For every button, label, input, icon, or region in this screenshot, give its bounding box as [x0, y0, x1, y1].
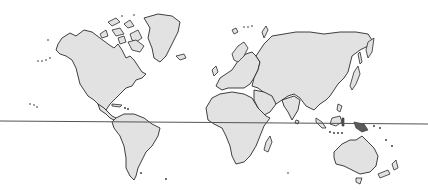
madagascar [264, 136, 272, 152]
java-isle [329, 131, 331, 133]
uk [212, 66, 218, 76]
japan [350, 66, 360, 90]
baffin-island [128, 40, 144, 52]
arctic-island [118, 36, 126, 44]
pacific-isle [379, 127, 381, 129]
aleutian-isle [49, 57, 51, 59]
aleutian-isle [41, 60, 43, 62]
arctic-island [108, 18, 120, 26]
new-zealand-south [378, 170, 390, 178]
falkland-isle [140, 172, 142, 174]
new-zealand-north [392, 160, 398, 170]
aleutian-isle [45, 59, 47, 61]
philippines [337, 104, 342, 112]
caribbean-isle [124, 107, 126, 109]
arctic-isle [121, 15, 123, 17]
world-map [0, 0, 428, 190]
arctic-isle [243, 26, 245, 28]
arctic-isle [247, 26, 249, 28]
novaya-zemlya [262, 26, 268, 38]
world-map-svg [0, 0, 428, 190]
highlighted-island [342, 118, 344, 126]
cuba [112, 104, 122, 107]
borneo [330, 116, 342, 126]
hawaii-isle [29, 103, 31, 105]
pacific-isle [385, 139, 387, 141]
sakhalin [358, 52, 362, 64]
svalbard [232, 28, 238, 34]
aleutian-isle [37, 60, 39, 62]
tasmania [356, 178, 362, 184]
java-isle [333, 132, 335, 134]
antarctic-isle [287, 172, 289, 174]
java-isle [341, 132, 343, 134]
arctic-island [124, 20, 134, 28]
south-america [112, 114, 160, 180]
india [282, 96, 300, 120]
greenland [144, 14, 180, 62]
arctic-island [100, 30, 108, 38]
pacific-isle [373, 125, 375, 127]
java-isle [337, 132, 339, 134]
arctic-isle [251, 25, 253, 27]
arctic-island [112, 28, 124, 36]
iceland [176, 54, 186, 60]
pacific-isle [391, 145, 393, 147]
south-georgia [165, 178, 167, 180]
hawaii-isle [36, 106, 38, 108]
hawaii-isle [33, 104, 35, 106]
australia [334, 136, 378, 174]
alaska-isle [47, 39, 49, 41]
caribbean-isle [127, 108, 129, 110]
arctic-isle [133, 14, 135, 16]
